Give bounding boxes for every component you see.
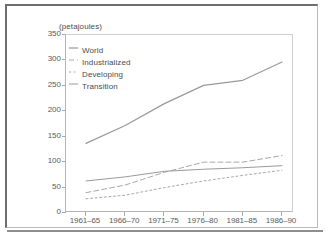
x-axis-tick-label: 1976–80 bbox=[187, 216, 217, 225]
y-axis-tick-label: 350 bbox=[48, 29, 61, 38]
series-line-transition bbox=[86, 166, 282, 181]
x-axis-tick-label: 1961–65 bbox=[70, 216, 100, 225]
x-axis-tick-label: 1966–70 bbox=[109, 216, 139, 225]
figure-frame: (petajoules) 050100150200250300350 1961–… bbox=[5, 4, 318, 228]
y-axis-unit-label: (petajoules) bbox=[59, 22, 102, 31]
y-axis-tick-label: 0 bbox=[57, 207, 61, 216]
y-axis-tick-label: 250 bbox=[48, 80, 61, 89]
x-axis-tick-label: 1971–75 bbox=[148, 216, 178, 225]
series-line-industrialized bbox=[86, 156, 282, 193]
legend-item-world[interactable]: World bbox=[69, 42, 179, 54]
x-axis-tick-label: 1981–85 bbox=[227, 216, 257, 225]
legend: WorldIndustrializedDevelopingTransition bbox=[69, 42, 179, 90]
y-axis-tick-labels: 050100150200250300350 bbox=[31, 6, 61, 230]
figure-canvas: (petajoules) 050100150200250300350 1961–… bbox=[0, 0, 328, 241]
y-axis-tick-label: 100 bbox=[48, 156, 61, 165]
legend-line-swatch-icon bbox=[69, 45, 78, 51]
y-axis-tick-label: 150 bbox=[48, 131, 61, 140]
frame-shadow bbox=[7, 230, 323, 232]
y-axis-tick-label: 50 bbox=[52, 182, 61, 191]
y-axis-tick-label: 300 bbox=[48, 54, 61, 63]
legend-item-transition[interactable]: Transition bbox=[69, 78, 179, 90]
legend-item-industrialized[interactable]: Industrialized bbox=[69, 54, 179, 66]
legend-line-swatch-icon bbox=[69, 81, 78, 87]
legend-item-developing[interactable]: Developing bbox=[69, 66, 179, 78]
legend-line-swatch-icon bbox=[69, 57, 78, 63]
chart-area: (petajoules) 050100150200250300350 1961–… bbox=[7, 6, 320, 230]
x-axis-tick-label: 1986–90 bbox=[266, 216, 296, 225]
y-axis-tick-label: 200 bbox=[48, 105, 61, 114]
legend-line-swatch-icon bbox=[69, 69, 78, 75]
series-line-developing bbox=[86, 170, 282, 198]
x-axis-tick-labels: 1961–651966–701971–751976–801981–851986–… bbox=[7, 216, 320, 230]
legend-item-label: Transition bbox=[82, 82, 118, 91]
